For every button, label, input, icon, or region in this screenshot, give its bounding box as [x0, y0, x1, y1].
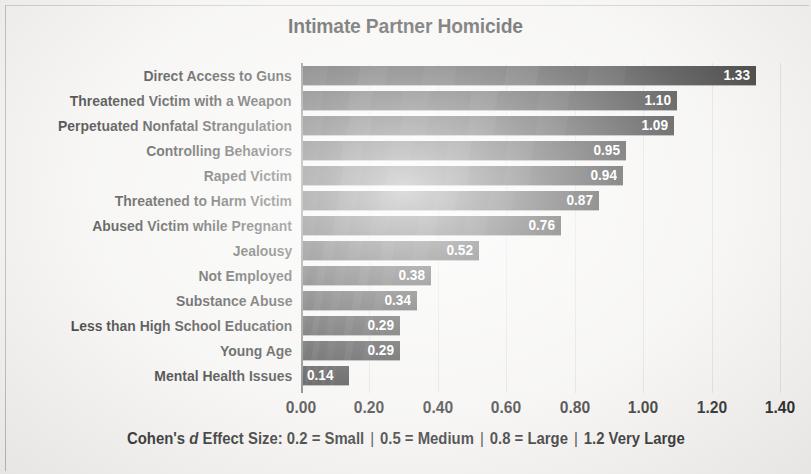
category-label: Perpetuated Nonfatal Strangulation — [58, 113, 292, 138]
bar-value-label: 0.52 — [439, 241, 473, 260]
category-label: Raped Victim — [204, 163, 292, 188]
y-axis-line — [301, 63, 303, 393]
bar-value-label: 0.95 — [586, 141, 620, 160]
bar-value-label: 1.33 — [716, 66, 750, 85]
x-axis-tick-label: 1.00 — [628, 398, 658, 418]
bar-value-label: 0.29 — [360, 341, 394, 360]
footnote-separator-2: | — [478, 430, 486, 447]
x-axis-tick-label: 0.40 — [423, 398, 453, 418]
bar-row: 0.52 — [301, 238, 780, 263]
bar-row: 0.38 — [301, 263, 780, 288]
gridline — [780, 63, 781, 393]
x-axis-tick-label: 0.80 — [559, 398, 589, 418]
x-axis-tick-label: 1.20 — [696, 398, 726, 418]
category-label: Less than High School Education — [70, 313, 292, 338]
bar — [301, 91, 677, 110]
footnote-text-3: 0.8 = Large — [489, 430, 567, 447]
bar — [301, 66, 756, 85]
x-axis-tick-label: 0.00 — [286, 398, 316, 418]
footnote-separator-3: | — [572, 430, 580, 447]
category-label: Controlling Behaviors — [146, 138, 292, 163]
chart-footnote: Cohen's d Effect Size: 0.2 = Small | 0.5… — [0, 430, 811, 448]
footnote-prefix: Cohen's — [127, 430, 185, 447]
bar-row: 1.09 — [301, 113, 780, 138]
bar-row: 0.34 — [301, 288, 780, 313]
bar-value-label: 0.87 — [559, 191, 593, 210]
bar-row: 0.76 — [301, 213, 780, 238]
chart-figure: Intimate Partner Homicide 1.331.101.090.… — [0, 0, 811, 474]
category-label: Abused Victim while Pregnant — [92, 213, 292, 238]
footnote-text-2: 0.5 = Medium — [380, 430, 474, 447]
footnote-d-symbol: d — [189, 430, 198, 447]
bar-value-label: 0.94 — [583, 166, 617, 185]
x-axis-tick-label: 1.40 — [765, 398, 795, 418]
bar-row: 1.33 — [301, 63, 780, 88]
bar-row: 0.29 — [301, 338, 780, 363]
bar-row: 0.87 — [301, 188, 780, 213]
bar-row: 0.29 — [301, 313, 780, 338]
category-label: Threatened to Harm Victim — [115, 188, 292, 213]
bar-row: 1.10 — [301, 88, 780, 113]
bar-value-label: 0.76 — [521, 216, 555, 235]
bar — [301, 116, 674, 135]
bar-row: 0.94 — [301, 163, 780, 188]
category-label: Young Age — [220, 338, 292, 363]
category-label: Threatened Victim with a Weapon — [70, 88, 292, 113]
bar-value-label: 1.10 — [638, 91, 672, 110]
category-label: Substance Abuse — [175, 288, 292, 313]
bar-value-label: 0.29 — [360, 316, 394, 335]
bar — [301, 141, 626, 160]
category-label: Jealousy — [232, 238, 292, 263]
bar-value-label: 0.14 — [307, 366, 334, 385]
bar — [301, 166, 623, 185]
category-label: Not Employed — [198, 263, 292, 288]
footnote-text-4: 1.2 Very Large — [583, 430, 684, 447]
plot-area: 1.331.101.090.950.940.870.760.520.380.34… — [301, 63, 780, 393]
x-axis-tick-label: 0.20 — [354, 398, 384, 418]
x-axis-tick-label: 0.60 — [491, 398, 521, 418]
chart-title: Intimate Partner Homicide — [32, 14, 778, 38]
category-label: Direct Access to Guns — [144, 63, 292, 88]
bar — [301, 191, 599, 210]
bar-value-label: 1.09 — [634, 116, 668, 135]
bar-value-label: 0.34 — [377, 291, 411, 310]
footnote-text-1: Effect Size: 0.2 = Small — [202, 430, 364, 447]
footnote-separator-1: | — [368, 430, 376, 447]
bar-row: 0.14 — [301, 363, 780, 388]
category-label: Mental Health Issues — [154, 363, 292, 388]
bar-row: 0.95 — [301, 138, 780, 163]
bar-value-label: 0.38 — [391, 266, 425, 285]
